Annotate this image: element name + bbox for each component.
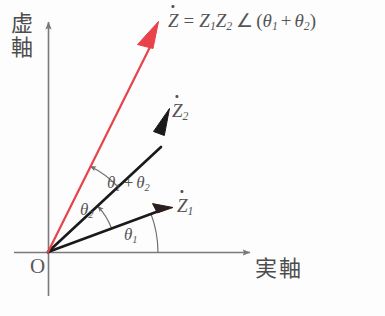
real-axis-label: 実軸	[255, 258, 303, 280]
angle-theta2-label: θ2	[80, 201, 94, 220]
formula-plus: +	[281, 10, 292, 31]
vector-z1	[48, 204, 173, 252]
angle-theta1-label: θ1	[124, 226, 138, 245]
vector-z1-label: Z1	[177, 196, 193, 218]
formula-rhs-mag-2-sub: 2	[226, 20, 232, 33]
formula-theta-2: θ	[295, 10, 304, 31]
dot-accent-icon	[181, 190, 184, 193]
product-formula-label: Z=Z1Z2∠(θ1+θ2)	[168, 11, 316, 33]
sum-theta-1-sub: 1	[115, 182, 120, 193]
arc-theta1	[151, 213, 158, 252]
formula-rhs-mag-1: Z	[199, 10, 210, 31]
sum-plus: +	[124, 173, 134, 192]
formula-theta-1-sub: 1	[272, 20, 278, 33]
phasor-diagram-figure: 虚軸 実軸 O Z=Z1Z2∠(θ1+θ2) Z2 Z1 θ1+θ2 θ2 θ1	[0, 0, 385, 316]
imaginary-axis-label: 虚軸	[8, 12, 30, 60]
vector-z2-arrowhead	[154, 109, 170, 136]
arc-theta2	[98, 206, 112, 228]
vector-z-product-arrowhead	[138, 22, 159, 49]
formula-lhs-var: Z	[168, 10, 179, 31]
sum-theta-2: θ	[136, 173, 144, 192]
sum-theta-2-sub: 2	[145, 182, 150, 193]
formula-rhs-mag-2: Z	[216, 10, 227, 31]
dot-accent-icon	[176, 95, 179, 98]
formula-theta-1: θ	[263, 10, 272, 31]
vector-z2-label: Z2	[172, 101, 188, 123]
z1-dotted-var: Z	[177, 196, 188, 215]
angle-theta1-plus-theta2-label: θ1+θ2	[107, 174, 150, 193]
formula-close-paren: )	[310, 10, 316, 31]
origin-label: O	[30, 256, 45, 277]
z2-var: Z	[172, 100, 183, 121]
z1-var: Z	[177, 195, 188, 216]
formula-z-dotted: Z	[168, 11, 179, 30]
formula-equals: =	[184, 10, 195, 31]
z2-dotted-var: Z	[172, 101, 183, 120]
z1-sub: 1	[188, 205, 194, 218]
formula-angle-symbol: ∠	[236, 10, 253, 31]
theta1-sub: 1	[132, 234, 137, 245]
dot-accent-icon	[172, 5, 175, 8]
z2-sub: 2	[183, 110, 189, 123]
theta2-sub: 2	[88, 209, 93, 220]
diagram-canvas	[0, 0, 385, 316]
